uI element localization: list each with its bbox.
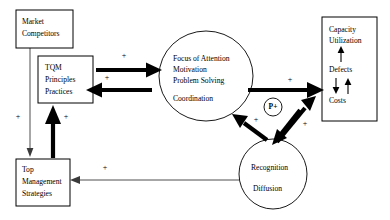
edge-recognition-to-topmanagement: [70, 176, 240, 184]
diagram-svg: Market Competitors TQM Principles Practi…: [0, 0, 390, 220]
plus-recognition-to-costs: +: [303, 119, 308, 128]
market-competitors-line-2: Competitors: [22, 29, 60, 38]
outcomes-line-capacity: Capacity: [329, 25, 356, 34]
tqm-line-3: Practices: [45, 87, 72, 96]
edge-focus-to-outcomes: [248, 82, 324, 98]
focus-line-2: Motivation: [173, 65, 207, 74]
edge-market-to-topmanagement: [27, 48, 34, 157]
edge-topmanagement-to-tqm: [45, 105, 61, 158]
recognition-line-2: Diffusion: [253, 184, 282, 193]
plus-tqm-to-focus: +: [122, 51, 127, 60]
node-top-management-strategies: Top Management Strategies: [16, 159, 70, 206]
plus-recognition-to-focus: +: [254, 115, 259, 124]
diagram-canvas: Market Competitors TQM Principles Practi…: [0, 0, 390, 220]
market-competitors-line-1: Market: [22, 17, 45, 26]
outcomes-line-costs: Costs: [329, 96, 346, 105]
plus-recognition-to-topmgmt: +: [103, 163, 108, 172]
node-outcomes-box: Capacity Utilization Defects Costs: [322, 17, 377, 121]
edge-recognition-to-focus: [232, 114, 267, 140]
recognition-line-1: Recognition: [251, 163, 288, 172]
edge-recognition-to-outcomes: [277, 96, 316, 142]
focus-line-1: Focus of Attention: [173, 54, 230, 63]
p-plus-label: P+: [269, 102, 278, 111]
outcomes-line-defects: Defects: [329, 65, 352, 74]
focus-line-3: Problem Solving: [173, 76, 224, 85]
plus-focus-to-costs: +: [288, 75, 293, 84]
edge-focus-to-tqm: [86, 83, 152, 98]
plus-topmgmt-to-tqm: +: [64, 112, 69, 121]
node-recognition-diffusion: Recognition Diffusion: [239, 139, 307, 209]
node-p-plus-marker: P+: [264, 98, 282, 116]
node-tqm-principles-practices: TQM Principles Practices: [38, 56, 93, 103]
plus-focus-to-tqm: +: [105, 73, 110, 82]
node-market-competitors: Market Competitors: [16, 10, 73, 48]
tqm-line-2: Principles: [45, 75, 75, 84]
tqm-line-1: TQM: [45, 63, 62, 72]
focus-line-4: Coordination: [173, 94, 213, 103]
topmanagement-line-3: Strategies: [22, 189, 52, 198]
node-focus-of-attention: Focus of Attention Motivation Problem So…: [159, 31, 253, 121]
plus-market-to-topmgmt: +: [16, 112, 21, 121]
topmanagement-line-2: Management: [22, 177, 63, 186]
outcomes-line-utilization: Utilization: [329, 36, 362, 45]
topmanagement-line-1: Top: [22, 165, 34, 174]
